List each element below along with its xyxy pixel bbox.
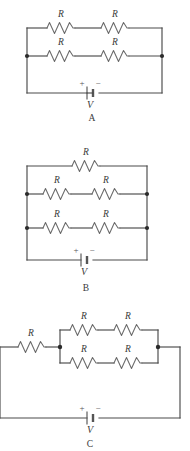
label-panel-a: A bbox=[89, 113, 96, 123]
resistor-b1 bbox=[72, 161, 100, 172]
node-a-left bbox=[25, 54, 29, 58]
resistor-b5 bbox=[92, 223, 120, 234]
label-resistor-b4: R bbox=[53, 209, 60, 219]
label-resistor-a4: R bbox=[111, 37, 118, 47]
label-resistor-a1: R bbox=[57, 9, 64, 19]
node-b-right-lower bbox=[145, 226, 149, 230]
resistor-c4 bbox=[70, 358, 98, 369]
label-battery-a-plus: + bbox=[79, 78, 84, 88]
circuit-panel-c: R R R R R + − V C bbox=[0, 311, 180, 449]
node-b-right-upper bbox=[145, 192, 149, 196]
label-resistor-b3: R bbox=[102, 175, 109, 185]
resistor-a3 bbox=[47, 51, 75, 62]
label-battery-b-minus: − bbox=[89, 245, 94, 255]
label-resistor-b1: R bbox=[82, 147, 89, 157]
label-resistor-b5: R bbox=[102, 209, 109, 219]
resistor-c2 bbox=[70, 325, 98, 336]
circuit-diagram-canvas: R R R R + − V A bbox=[0, 0, 190, 451]
resistor-a1 bbox=[47, 23, 75, 34]
label-resistor-c4: R bbox=[80, 344, 87, 354]
label-resistor-a2: R bbox=[111, 9, 118, 19]
label-resistor-c3: R bbox=[124, 311, 131, 321]
node-b-left-lower bbox=[25, 226, 29, 230]
resistor-c1 bbox=[18, 342, 46, 353]
circuit-panel-a: R R R R + − V A bbox=[25, 9, 164, 123]
label-resistor-a3: R bbox=[57, 37, 64, 47]
label-battery-c-v: V bbox=[87, 424, 95, 435]
resistor-b4 bbox=[43, 223, 71, 234]
label-resistor-b2: R bbox=[53, 175, 60, 185]
resistor-c5 bbox=[114, 358, 142, 369]
label-panel-c: C bbox=[87, 439, 93, 449]
node-c-left bbox=[58, 345, 62, 349]
label-resistor-c2: R bbox=[80, 311, 87, 321]
label-battery-b-v: V bbox=[81, 266, 89, 277]
label-resistor-c5: R bbox=[124, 344, 131, 354]
label-battery-a-minus: − bbox=[95, 78, 100, 88]
node-b-left-upper bbox=[25, 192, 29, 196]
label-resistor-c1: R bbox=[27, 328, 34, 338]
label-panel-b: B bbox=[83, 283, 89, 293]
label-battery-b-plus: + bbox=[73, 245, 78, 255]
node-c-right bbox=[156, 345, 160, 349]
circuit-panel-b: R R R R R + − V B bbox=[25, 147, 149, 293]
label-battery-c-minus: − bbox=[95, 403, 100, 413]
resistor-c3 bbox=[114, 325, 142, 336]
resistor-a2 bbox=[101, 23, 129, 34]
resistor-b2 bbox=[43, 189, 71, 200]
resistor-b3 bbox=[92, 189, 120, 200]
label-battery-c-plus: + bbox=[79, 403, 84, 413]
circuit-figure-root: R R R R + − V A bbox=[0, 0, 190, 451]
node-a-right bbox=[160, 54, 164, 58]
label-battery-a-v: V bbox=[87, 99, 95, 110]
resistor-a4 bbox=[101, 51, 129, 62]
